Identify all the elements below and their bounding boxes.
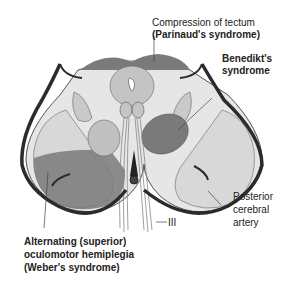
tectum-label-line2: (Parinaud's syndrome) [152, 29, 260, 41]
weber-label-line2: oculomotor hemiplegia [24, 249, 134, 261]
oculomotor-nucleus-left [120, 102, 132, 118]
oculomotor-nucleus-right [132, 102, 144, 118]
cn3-label: III [168, 217, 176, 229]
benedikt-label-line1: Benedikt's [222, 53, 272, 65]
pca-label-line2: cerebral [233, 204, 269, 216]
midline-artery-cross-section [130, 176, 138, 184]
left-red-nucleus [88, 120, 120, 156]
pca-label-line1: Posterior [233, 191, 273, 203]
pca-label-line3: artery [233, 217, 259, 229]
weber-label-line3: (Weber's syndrome) [24, 262, 120, 274]
weber-label-line1: Alternating (superior) [24, 236, 126, 248]
benedikt-label-line2: syndrome [222, 65, 270, 77]
tectum-label-line1: Compression of tectum [152, 17, 255, 29]
